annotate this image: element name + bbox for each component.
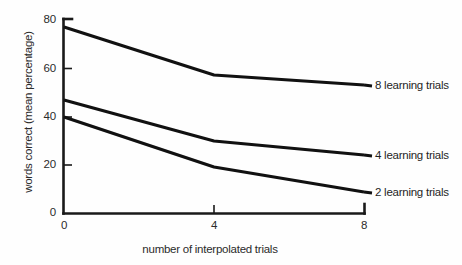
- line-chart-figure: 80 60 40 20 0 0 4 8 8 learning trials 4 …: [0, 0, 462, 265]
- x-tick-label-4: 4: [202, 219, 226, 231]
- series-leader-8-learning-trials: [364, 85, 372, 86]
- x-tick-label-0: 0: [52, 219, 76, 231]
- series-leader-4-learning-trials: [364, 155, 372, 156]
- series-label-2-learning-trials: 2 learning trials: [375, 186, 449, 198]
- x-tick-label-8: 8: [352, 219, 376, 231]
- series-label-8-learning-trials: 8 learning trials: [375, 79, 449, 91]
- series-line-8-learning-trials: [64, 27, 364, 85]
- series-line-2-learning-trials: [64, 117, 364, 192]
- series-label-4-learning-trials: 4 learning trials: [375, 149, 449, 161]
- y-axis-title: words correct (mean percentage): [22, 12, 34, 212]
- series-line-4-learning-trials: [64, 100, 364, 155]
- x-axis-title: number of interpolated trials: [0, 243, 420, 255]
- series-leader-2-learning-trials: [364, 192, 372, 193]
